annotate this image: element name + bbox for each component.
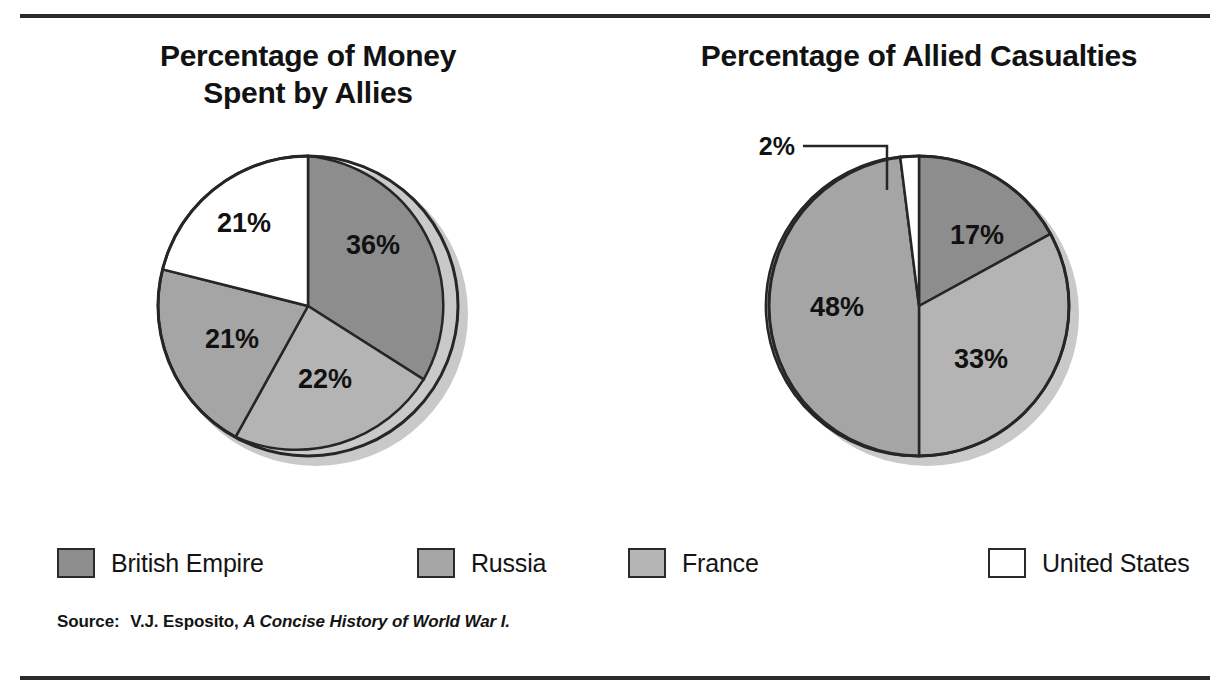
chart-title-line-2: Spent by Allies bbox=[203, 76, 412, 109]
chart-title-line-1: Percentage of Money bbox=[160, 39, 456, 72]
pie-label-british-empire: 17% bbox=[950, 220, 1004, 250]
legend-label-france: France bbox=[682, 549, 759, 578]
legend-label-british-empire: British Empire bbox=[111, 549, 264, 578]
chart-panel-allied-casualties: Percentage of Allied Casualties 2% 17% 3… bbox=[619, 30, 1219, 530]
source-note: Source: V.J. Esposito, A Concise History… bbox=[57, 612, 510, 632]
pie-label-france: 22% bbox=[298, 364, 352, 394]
source-title: A Concise History of World War I. bbox=[243, 612, 510, 631]
legend-swatch-united-states bbox=[988, 548, 1026, 578]
pie-label-france: 33% bbox=[954, 344, 1008, 374]
pie-label-united-states: 21% bbox=[217, 208, 271, 238]
legend-item-russia[interactable]: Russia bbox=[417, 548, 546, 578]
chart-title-allied-casualties: Percentage of Allied Casualties bbox=[619, 38, 1219, 75]
chart-panel-money-spent: Percentage of Money Spent by Allies 36% … bbox=[8, 30, 608, 530]
bottom-divider-rule bbox=[20, 676, 1210, 680]
legend-item-united-states[interactable]: United States bbox=[988, 548, 1190, 578]
pie-chart-money-spent: 36% 22% 21% 21% bbox=[8, 126, 608, 486]
legend-label-united-states: United States bbox=[1042, 549, 1190, 578]
pie-label-russia: 21% bbox=[205, 324, 259, 354]
legend-swatch-france bbox=[628, 548, 666, 578]
legend-swatch-russia bbox=[417, 548, 455, 578]
top-divider-rule bbox=[20, 14, 1210, 18]
legend-label-russia: Russia bbox=[471, 549, 546, 578]
pie-label-united-states: 2% bbox=[759, 132, 795, 160]
legend-item-france[interactable]: France bbox=[628, 548, 759, 578]
pie-chart-allied-casualties: 2% 17% 33% 48% bbox=[619, 126, 1219, 486]
legend-swatch-british-empire bbox=[57, 548, 95, 578]
pie-label-russia: 48% bbox=[810, 292, 864, 322]
chart-legend: British Empire Russia France United Stat… bbox=[0, 548, 1227, 594]
chart-title-money-spent: Percentage of Money Spent by Allies bbox=[8, 38, 608, 111]
source-author: V.J. Esposito, bbox=[130, 612, 239, 631]
pie-label-british-empire: 36% bbox=[346, 230, 400, 260]
chart-title-line-1: Percentage of Allied Casualties bbox=[701, 39, 1137, 72]
legend-item-british-empire[interactable]: British Empire bbox=[57, 548, 264, 578]
source-prefix: Source: bbox=[57, 612, 120, 631]
